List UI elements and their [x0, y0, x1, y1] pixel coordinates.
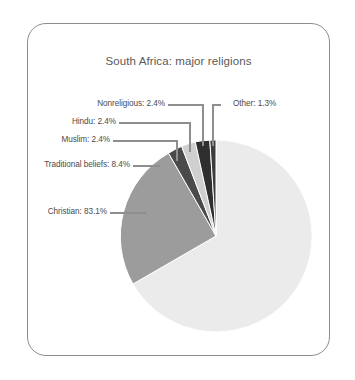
slice-label-hindu: Hindu: 2.4%: [0, 118, 116, 126]
figure-root: South Africa: major religions: [0, 0, 355, 380]
slice-label-christian: Christian: 83.1%: [0, 208, 107, 216]
slice-label-muslim: Muslim: 2.4%: [0, 136, 110, 144]
leader-line-nonreligious: [168, 105, 203, 146]
slice-label-other: Other: 1.3%: [233, 100, 323, 108]
slice-label-traditional-beliefs: Traditional beliefs: 8.4%: [0, 161, 130, 169]
slice-label-nonreligious: Nonreligious: 2.4%: [0, 100, 165, 108]
pie-chart: [0, 0, 355, 380]
